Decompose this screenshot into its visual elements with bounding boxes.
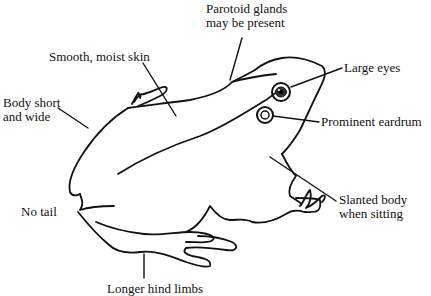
label-line: and wide (3, 110, 60, 124)
label-line: may be present (206, 16, 287, 30)
label-parotoid-glands: Parotoid glands may be present (206, 2, 287, 30)
frog-front-leg (282, 154, 325, 208)
label-line: Longer hind limbs (107, 282, 203, 296)
frog-illustration (0, 0, 431, 296)
leader-skin (143, 63, 176, 116)
label-smooth-skin: Smooth, moist skin (49, 50, 150, 64)
frog-dorsal-fold (118, 90, 280, 174)
leader-parotoid (230, 38, 242, 80)
leader-body (58, 108, 88, 128)
frog-back-outline (128, 57, 325, 154)
label-slanted-body: Slanted body when sitting (339, 193, 407, 221)
frog-thigh (80, 194, 114, 210)
label-line: Body short (3, 96, 60, 110)
label-line: No tail (21, 205, 57, 219)
label-line: Smooth, moist skin (49, 50, 150, 64)
frog-diagram: Parotoid glands may be present Smooth, m… (0, 0, 431, 296)
label-line: Parotoid glands (206, 2, 287, 16)
label-line: Large eyes (344, 61, 400, 75)
label-line: Prominent eardrum (321, 115, 422, 129)
leader-eyes (291, 68, 342, 87)
eye-highlight (278, 89, 280, 91)
label-line: when sitting (339, 207, 407, 221)
leader-eardrum (273, 116, 319, 122)
label-prominent-eardrum: Prominent eardrum (321, 115, 422, 129)
label-line: Slanted body (339, 193, 407, 207)
eardrum-inner (261, 111, 269, 119)
label-body-short-wide: Body short and wide (3, 96, 60, 124)
label-large-eyes: Large eyes (344, 61, 400, 75)
leader-slanted (270, 157, 336, 201)
label-longer-hind-limbs: Longer hind limbs (107, 282, 203, 296)
label-no-tail: No tail (21, 205, 57, 219)
eardrum-outer (257, 107, 273, 123)
